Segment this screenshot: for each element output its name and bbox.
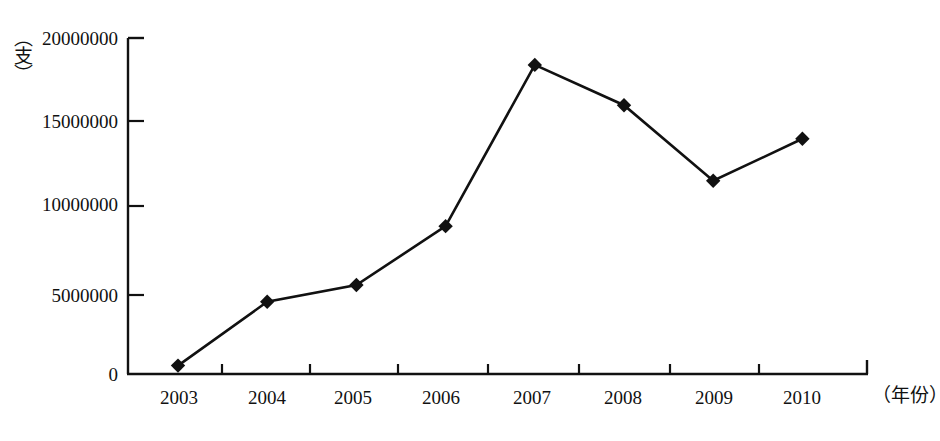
data-point-marker (528, 58, 542, 72)
data-point-marker (438, 219, 452, 233)
x-axis-ticks (222, 364, 759, 374)
scan-artifact-bottom-text: ……………………………………………………………… (215, 430, 775, 441)
data-point-marker (795, 132, 809, 146)
data-point-marker (349, 278, 363, 292)
y-axis-ticks (128, 121, 144, 295)
series-markers (171, 58, 810, 373)
series-line (178, 65, 802, 366)
